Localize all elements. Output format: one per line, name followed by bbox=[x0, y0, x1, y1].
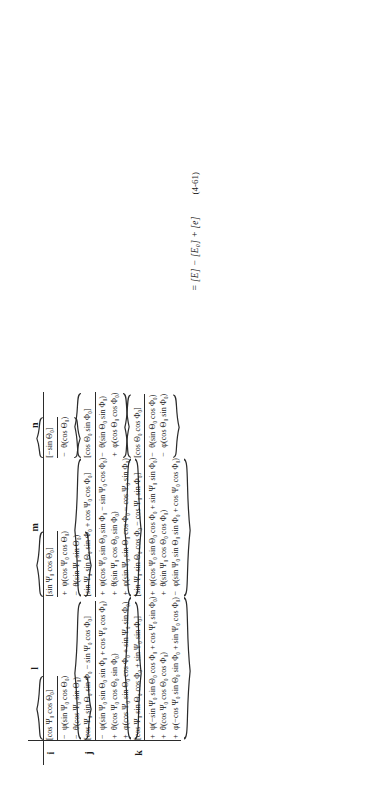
term-body: θ(sin Θ₀ cos Φ₀) bbox=[148, 395, 157, 448]
column-header-m: m bbox=[28, 458, 42, 597]
term: +θ(sin Ψ₀ cos Θ₀ sin Φ₀) bbox=[109, 458, 120, 597]
matrix-wrapper: l m n i bbox=[28, 4, 181, 765]
cell-k-m: [sin Ψ₀ sin Θ₀ cos Φ₀ − cos Ψ₀ sin Φ₀] +… bbox=[132, 458, 181, 597]
cell-j-l: [cos Ψ₀ sin Θ₀ sin Φ₀ − sin Ψ₀ cos Φ₀] −… bbox=[82, 597, 131, 741]
term-body: φ(sin Ψ₀ sin Θ₀ cos Φ₀ − cos Ψ₀ sin Φ₀) bbox=[121, 458, 130, 587]
term-body: θ(sin Θ₀ sin Φ₀) bbox=[98, 396, 107, 448]
term-body: φ(−cos Ψ₀ sin Θ₀ sin Φ₀ + sin Ψ₀ cos Φ₀) bbox=[171, 597, 180, 730]
term: −φ(sin Ψ₀ sin Θ₀ sin Φ₀ + cos Ψ₀ cos Φ₀) bbox=[170, 458, 181, 597]
column-header-row: l m n bbox=[28, 393, 42, 766]
final-equation: = [E] − [E₀] + [e] bbox=[190, 217, 200, 291]
term-body: φ(cos Θ₀ cos Φ₀) bbox=[110, 393, 119, 448]
brace-bottom-icon bbox=[74, 417, 81, 458]
cell-k-n: [cos Θ₀ cos Φ₀] −θ(sin Θ₀ cos Φ₀) −φ(cos… bbox=[132, 393, 181, 458]
direction-cosine-matrix: l m n i bbox=[28, 393, 181, 766]
expression-i-m: [sin Ψ₀ cos Θ₀] +ψ(cos Ψ₀ cos Θ₀) −θ(sin… bbox=[44, 531, 82, 597]
term-body: φ(cos Ψ₀ sin Θ₀ cos Φ₀ + sin Ψ₀ sin Φ₀) bbox=[121, 601, 130, 730]
term: −ψ(sin Ψ₀ cos Θ₀) bbox=[59, 676, 70, 740]
term: +θ(cos Ψ₀ cos Θ₀ sin Φ₀) bbox=[109, 601, 120, 740]
equation-number: (4-61) bbox=[190, 172, 200, 195]
term: −θ(cos Ψ₀ sin Θ₀) bbox=[71, 676, 82, 740]
expression-j-n: [cos Θ₀ sin Φ₀] −θ(sin Θ₀ sin Φ₀) +φ(cos… bbox=[82, 393, 120, 458]
cell-i-l: [cos Ψ₀ cos Θ₀] −ψ(sin Ψ₀ cos Θ₀) −θ(cos… bbox=[44, 597, 82, 741]
term-body: ψ(cos Ψ₀ cos Θ₀) bbox=[60, 531, 69, 587]
row-header-j: j bbox=[82, 741, 131, 766]
term-body: ψ(cos Ψ₀ sin Θ₀ sin Φ₀ − sin Ψ₀ cos Φ₀) bbox=[98, 458, 107, 587]
term-body: θ(cos Ψ₀ sin Θ₀) bbox=[72, 677, 81, 730]
row-header-i: i bbox=[44, 741, 82, 766]
brace-bottom-icon bbox=[173, 394, 180, 458]
cell-i-m: [sin Ψ₀ cos Θ₀] +ψ(cos Ψ₀ cos Θ₀) −θ(sin… bbox=[44, 458, 82, 597]
term: +φ(−cos Ψ₀ sin Θ₀ sin Φ₀ + sin Ψ₀ cos Φ₀… bbox=[170, 597, 181, 740]
term: +ψ(cos Ψ₀ cos Θ₀) bbox=[59, 531, 70, 597]
column-header-l: l bbox=[28, 597, 42, 741]
lead-term: [−sin Θ₀] bbox=[44, 417, 57, 458]
expression-i-l: [cos Ψ₀ cos Θ₀] −ψ(sin Ψ₀ cos Θ₀) −θ(cos… bbox=[44, 676, 82, 740]
term: +ψ(cos Ψ₀ sin Θ₀ sin Φ₀ − sin Ψ₀ cos Φ₀) bbox=[97, 458, 108, 597]
lead-term: [sin Ψ₀ sin Θ₀ cos Φ₀ − cos Ψ₀ sin Φ₀] bbox=[132, 458, 145, 597]
matrix-row-k: k [cos Ψ₀ sin Θ₀ cos Φ₀ + sin Ψ₀ sin Φ₀]… bbox=[132, 393, 181, 766]
term: −θ(sin Θ₀ cos Φ₀) bbox=[147, 394, 158, 458]
row-header-k: k bbox=[132, 741, 181, 766]
cell-k-l: [cos Ψ₀ sin Θ₀ cos Φ₀ + sin Ψ₀ sin Φ₀] +… bbox=[132, 597, 181, 741]
term-body: θ(sin Ψ₀ sin Θ₀) bbox=[72, 535, 81, 587]
term-body: θ(cos Θ₀) bbox=[60, 417, 69, 448]
term: +φ(cos Θ₀ cos Φ₀) bbox=[109, 393, 120, 458]
term-body: ψ(sin Ψ₀ sin Θ₀ sin Φ₀ + cos Ψ₀ cos Φ₀) bbox=[98, 601, 107, 730]
cell-j-n: [cos Θ₀ sin Φ₀] −θ(sin Θ₀ sin Φ₀) +φ(cos… bbox=[82, 393, 131, 458]
term-body: θ(cos Ψ₀ cos Θ₀ sin Φ₀) bbox=[110, 653, 119, 730]
term-body: θ(sin Ψ₀ cos Θ₀ cos Φ₀) bbox=[159, 510, 168, 587]
term: −θ(sin Ψ₀ sin Θ₀) bbox=[71, 531, 82, 597]
lead-term: [cos Θ₀ cos Φ₀] bbox=[132, 394, 145, 458]
lead-term: [cos Θ₀ sin Φ₀] bbox=[82, 393, 95, 458]
expression-k-m: [sin Ψ₀ sin Θ₀ cos Φ₀ − cos Ψ₀ sin Φ₀] +… bbox=[132, 458, 181, 597]
cell-j-m: [sin Ψ₀ sin Θ₀ sin Φ₀ + cos Ψ₀ cos Φ₀] +… bbox=[82, 458, 131, 597]
expression-k-n: [cos Θ₀ cos Φ₀] −θ(sin Θ₀ cos Φ₀) −φ(cos… bbox=[132, 394, 170, 458]
expression-i-n: [−sin Θ₀] −θ(cos Θ₀) bbox=[44, 417, 70, 458]
expression-j-l: [cos Ψ₀ sin Θ₀ sin Φ₀ − sin Ψ₀ cos Φ₀] −… bbox=[82, 601, 131, 740]
equation-plate: l m n i bbox=[0, 0, 370, 797]
term-body: φ(sin Ψ₀ sin Θ₀ sin Φ₀ + cos Ψ₀ cos Φ₀) bbox=[171, 458, 180, 587]
term-body: ψ(sin Ψ₀ cos Θ₀) bbox=[60, 676, 69, 730]
term: +ψ(cos Ψ₀ sin Θ₀ cos Φ₀ + sin Ψ₀ sin Φ₀) bbox=[147, 458, 158, 597]
brace-bottom-icon bbox=[123, 393, 130, 458]
term-body: φ(cos Θ₀ sin Φ₀) bbox=[159, 394, 168, 448]
term-body: θ(cos Ψ₀ cos Θ₀ cos Φ₀) bbox=[159, 652, 168, 730]
expression-j-m: [sin Ψ₀ sin Θ₀ sin Φ₀ + cos Ψ₀ cos Φ₀] +… bbox=[82, 458, 131, 597]
rotated-page-container: l m n i bbox=[0, 0, 370, 797]
matrix-row-i: i [cos Ψ₀ cos Θ₀] −ψ(sin Ψ₀ cos Θ₀) −θ(c… bbox=[44, 393, 82, 766]
matrix-row-j: j [cos Ψ₀ sin Θ₀ sin Φ₀ − sin Ψ₀ cos Φ₀]… bbox=[82, 393, 131, 766]
table-corner bbox=[28, 741, 42, 766]
term-body: θ(sin Ψ₀ cos Θ₀ sin Φ₀) bbox=[110, 511, 119, 586]
term-body: ψ(−sin Ψ₀ sin Θ₀ cos Φ₀ + cos Ψ₀ sin Φ₀) bbox=[148, 597, 157, 730]
term: +φ(cos Ψ₀ sin Θ₀ cos Φ₀ + sin Ψ₀ sin Φ₀) bbox=[120, 601, 131, 740]
term: −ψ(sin Ψ₀ sin Θ₀ sin Φ₀ + cos Ψ₀ cos Φ₀) bbox=[97, 601, 108, 740]
term: −θ(sin Θ₀ sin Φ₀) bbox=[97, 393, 108, 458]
lead-term: [cos Ψ₀ sin Θ₀ cos Φ₀ + sin Ψ₀ sin Φ₀] bbox=[132, 597, 145, 740]
lead-term: [sin Ψ₀ sin Θ₀ sin Φ₀ + cos Ψ₀ cos Φ₀] bbox=[82, 458, 95, 597]
lead-term: [cos Ψ₀ sin Θ₀ sin Φ₀ − sin Ψ₀ cos Φ₀] bbox=[82, 601, 95, 740]
term: +ψ(−sin Ψ₀ sin Θ₀ cos Φ₀ + cos Ψ₀ sin Φ₀… bbox=[147, 597, 158, 740]
term: −θ(cos Θ₀) bbox=[59, 417, 70, 458]
cell-i-n: [−sin Θ₀] −θ(cos Θ₀) bbox=[44, 393, 82, 458]
expression-k-l: [cos Ψ₀ sin Θ₀ cos Φ₀ + sin Ψ₀ sin Φ₀] +… bbox=[132, 597, 181, 740]
term-body: ψ(cos Ψ₀ sin Θ₀ cos Φ₀ + sin Ψ₀ sin Φ₀) bbox=[148, 458, 157, 587]
term: +φ(sin Ψ₀ sin Θ₀ cos Φ₀ − cos Ψ₀ sin Φ₀) bbox=[120, 458, 131, 597]
lead-term: [cos Ψ₀ cos Θ₀] bbox=[44, 676, 57, 740]
term: +θ(sin Ψ₀ cos Θ₀ cos Φ₀) bbox=[158, 458, 169, 597]
term: −φ(cos Θ₀ sin Φ₀) bbox=[158, 394, 169, 458]
term: +θ(cos Ψ₀ cos Θ₀ cos Φ₀) bbox=[158, 597, 169, 740]
column-header-n: n bbox=[28, 393, 42, 458]
final-equation-row: = [E] − [E₀] + [e] (4-61) bbox=[190, 4, 200, 765]
lead-term: [sin Ψ₀ cos Θ₀] bbox=[44, 531, 57, 597]
